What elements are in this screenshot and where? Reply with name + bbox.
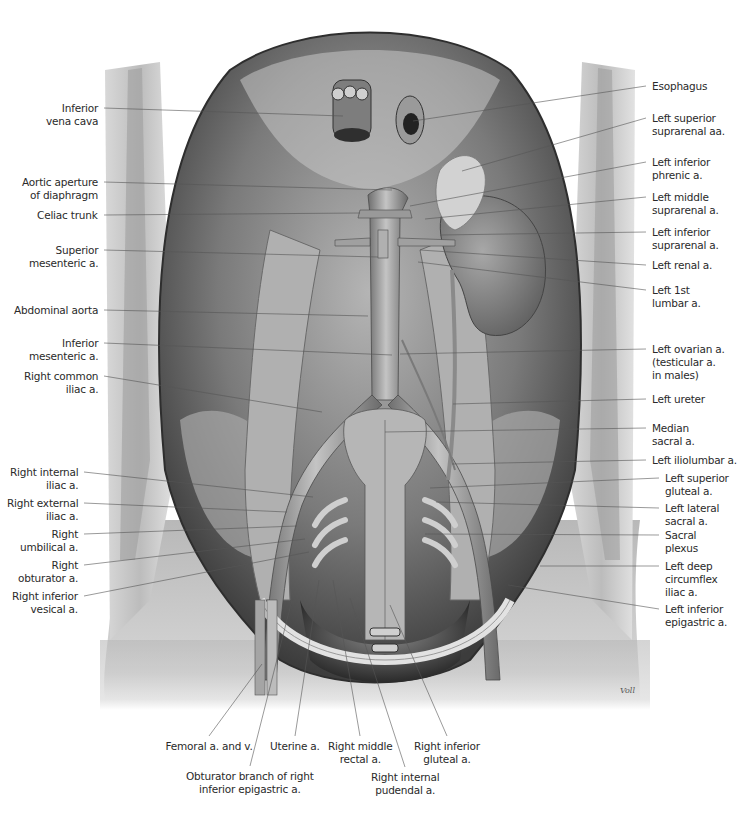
label-uterine: Uterine a. [270,740,320,753]
label-inferior-mesenteric: Inferior mesenteric a. [29,337,98,363]
label-right-inferior-vesical: Right inferior vesical a. [12,590,78,616]
label-right-middle-rectal: Right middle rectal a. [328,740,392,766]
label-inferior-vena-cava: Inferior vena cava [46,102,98,128]
label-aortic-aperture: Aortic aperture of diaphragm [22,176,98,202]
label-esophagus: Esophagus [652,80,707,93]
label-median-sacral: Median sacral a. [652,422,695,448]
label-left-inferior-phrenic: Left inferior phrenic a. [652,156,710,182]
label-left-iliolumbar: Left iliolumbar a. [652,454,737,467]
label-superior-mesenteric: Superior mesenteric a. [29,244,98,270]
label-right-inferior-gluteal: Right inferior gluteal a. [414,740,480,766]
artist-signature: Voll [620,686,635,695]
label-right-external-iliac: Right external iliac a. [7,497,78,523]
label-left-ureter: Left ureter [652,393,705,406]
label-left-inferior-suprarenal: Left inferior suprarenal a. [652,226,719,252]
inferior-vena-cava-opening [332,80,371,142]
label-obturator-branch: Obturator branch of right inferior epiga… [186,770,314,796]
label-right-internal-pudendal: Right internal pudendal a. [371,771,439,797]
label-celiac-trunk: Celiac trunk [37,209,98,222]
label-right-internal-iliac: Right internal iliac a. [10,466,78,492]
label-left-ovarian: Left ovarian a. (testicular a. in males) [652,343,725,382]
label-right-umbilical: Right umbilical a. [20,528,78,554]
label-femoral: Femoral a. and v. [166,740,253,753]
label-left-superior-gluteal: Left superior gluteal a. [665,472,729,498]
label-left-middle-suprarenal: Left middle suprarenal a. [652,191,719,217]
label-sacral-plexus: Sacral plexus [665,529,698,555]
label-left-superior-suprarenal: Left superior suprarenal aa. [652,112,725,138]
label-abdominal-aorta: Abdominal aorta [14,304,98,317]
label-right-common-iliac: Right common iliac a. [24,370,98,396]
label-left-1st-lumbar: Left 1st lumbar a. [652,284,701,310]
label-right-obturator: Right obturator a. [18,559,78,585]
label-left-deep-circumflex-iliac: Left deep circumflex iliac a. [665,560,718,599]
label-left-renal: Left renal a. [652,259,712,272]
label-left-lateral-sacral: Left lateral sacral a. [665,502,719,528]
label-left-inferior-epigastric: Left inferior epigastric a. [665,603,727,629]
